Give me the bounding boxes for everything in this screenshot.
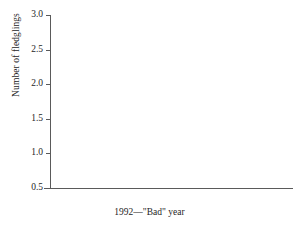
y-axis-tick-label: 2.0 [31,79,43,89]
plot-area: 3.02.52.01.51.00.5 [50,15,293,189]
y-axis-line [50,15,51,189]
y-axis-tick-mark [46,50,51,51]
y-axis-tick-mark [46,15,51,16]
y-axis-title: Number of fledglings [11,0,21,115]
y-axis-tick-mark [46,153,51,154]
bar-chart: Number of fledglings 3.02.52.01.51.00.5 … [0,0,299,235]
y-axis-tick-label: 0.5 [31,183,43,193]
y-axis-tick-label: 3.0 [31,10,43,20]
y-axis-tick-mark [46,119,51,120]
y-axis-tick-mark [46,84,51,85]
x-axis-line [44,188,293,189]
x-axis-title: 1992—"Bad" year [0,207,299,217]
y-axis-tick-label: 2.5 [31,45,43,55]
y-axis-tick-label: 1.5 [31,114,43,124]
y-axis-tick-mark [46,188,51,189]
y-axis-tick-label: 1.0 [31,149,43,159]
